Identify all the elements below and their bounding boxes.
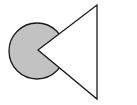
white-triangle — [38, 5, 97, 99]
diagram-canvas — [0, 0, 137, 105]
